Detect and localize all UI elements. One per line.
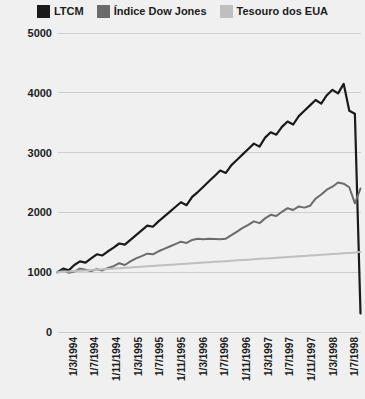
x-tick-label: 1/7/1997 — [285, 337, 295, 376]
x-tick-label: 1/7/1994 — [90, 337, 100, 376]
x-tick-label: 1/11/1997 — [307, 337, 317, 381]
x-tick-label: 1/3/1994 — [69, 337, 79, 376]
x-tick-label: 1/7/1998 — [350, 337, 360, 376]
x-tick-label: 1/11/1995 — [177, 337, 187, 381]
chart-container: LTCM Índice Dow Jones Tesouro dos EUA 01… — [0, 0, 365, 399]
x-tick-label: 1/7/1995 — [155, 337, 165, 376]
x-tick-label: 1/3/1995 — [134, 337, 144, 376]
x-tick-label: 1/3/1998 — [329, 337, 339, 376]
x-tick-label: 1/3/1997 — [264, 337, 274, 376]
x-tick-label: 1/7/1996 — [220, 337, 230, 376]
x-tick-label: 1/11/1994 — [112, 337, 122, 381]
x-tick-label: 1/11/1996 — [242, 337, 252, 381]
x-tick-label: 1/3/1996 — [199, 337, 209, 376]
x-axis-labels: 1/3/19941/7/19941/11/19941/3/19951/7/199… — [0, 0, 365, 399]
